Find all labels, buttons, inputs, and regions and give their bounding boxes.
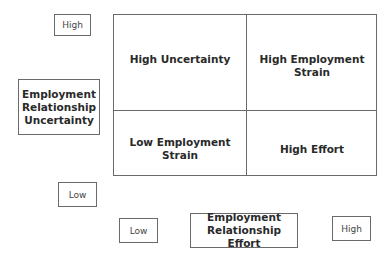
quadrant-bottom-right-text: High Effort	[280, 143, 344, 155]
x-axis-title-line-1: Employment	[207, 211, 281, 224]
x-axis-low-label: Low	[119, 218, 158, 243]
quadrant-top-right-line-1: High Employment	[247, 53, 377, 66]
quadrant-top-left: High Uncertainty	[114, 53, 246, 66]
x-axis-title: Employment Relationship Effort	[190, 213, 298, 248]
quadrant-bottom-left-word-low: Low	[129, 136, 153, 148]
quadrant-top-left-text: High Uncertainty	[130, 53, 231, 65]
y-axis-title-line-1: Employment	[22, 88, 96, 101]
y-axis-title-line-2: Relationship	[22, 101, 96, 114]
y-axis-title-line-3: Uncertainty	[24, 114, 94, 127]
quadrant-bottom-left-line-2: Strain	[114, 149, 246, 162]
x-axis-title-line-2: Relationship Effort	[191, 224, 297, 250]
quadrant-top-right: High Employment Strain	[247, 53, 377, 79]
quadrant-top-right-line-2: Strain	[247, 66, 377, 79]
quadrant-bottom-left: Low Employment Strain	[114, 136, 246, 162]
y-axis-high-label: High	[54, 14, 91, 36]
quadrant-bottom-right: High Effort	[247, 143, 377, 156]
quadrant-grid: High Uncertainty High Employment Strain …	[113, 14, 377, 176]
y-axis-low-label: Low	[58, 182, 97, 207]
quadrant-bottom-left-word-employment: Employment	[157, 136, 231, 148]
horizontal-divider	[114, 110, 376, 111]
x-axis-high-label: High	[332, 216, 371, 241]
y-axis-title: Employment Relationship Uncertainty	[18, 79, 100, 135]
